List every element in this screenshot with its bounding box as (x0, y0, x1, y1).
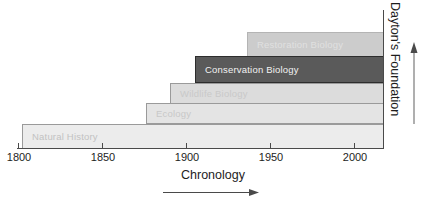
x-axis-line (17, 148, 384, 149)
bar-label-wildlife-biology: Wildlife Biology (171, 89, 248, 99)
bar-label-restoration-biology: Restoration Biology (248, 40, 343, 50)
bar-restoration-biology: Restoration Biology (247, 32, 384, 57)
bar-label-natural-history: Natural History (23, 132, 98, 142)
x-tick-label-1800: 1800 (7, 151, 31, 163)
bar-conservation-biology: Conservation Biology (195, 56, 384, 83)
y-axis-title: Dayton's Foundation (384, 0, 406, 150)
x-tick-1800 (18, 143, 19, 149)
x-tick-label-1900: 1900 (175, 151, 199, 163)
x-tick-1950 (270, 143, 271, 149)
bar-wildlife-biology: Wildlife Biology (170, 83, 384, 104)
timeline-chart: Restoration Biology Conservation Biology… (0, 0, 426, 200)
x-tick-1850 (102, 143, 103, 149)
chronology-arrow-icon (163, 188, 259, 197)
x-tick-label-1850: 1850 (91, 151, 115, 163)
bar-ecology: Ecology (146, 103, 384, 124)
x-tick-label-2000: 2000 (343, 151, 367, 163)
x-tick-1900 (186, 143, 187, 149)
bar-label-conservation-biology: Conservation Biology (196, 65, 299, 75)
x-tick-label-1950: 1950 (259, 151, 283, 163)
bar-label-ecology: Ecology (147, 109, 191, 119)
x-tick-2000 (354, 143, 355, 149)
foundation-arrow-icon (409, 42, 419, 124)
bar-natural-history: Natural History (22, 124, 384, 149)
x-axis-title: Chronology (0, 168, 426, 182)
